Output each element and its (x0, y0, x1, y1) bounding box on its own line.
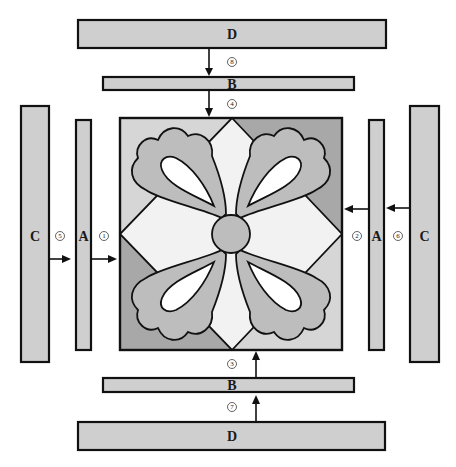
strip-right-inner-a: A (369, 120, 384, 350)
strip-label: C (30, 229, 40, 244)
strip-label: A (371, 229, 382, 244)
strip-label: B (227, 378, 236, 393)
step-number: 2 (355, 232, 359, 240)
step-number: 3 (230, 360, 234, 368)
quilt-assembly-diagram: D 8 B 4 C 5 A 1 (0, 0, 456, 467)
strip-label: C (419, 229, 429, 244)
strip-label: B (227, 77, 236, 92)
strip-left-inner-a: A (76, 120, 91, 350)
arrow-step-7: 7 (228, 395, 261, 422)
arrow-step-5: 5 (49, 232, 71, 264)
strip-bottom-outer-d: D (78, 422, 385, 450)
arrow-step-8: 8 (205, 48, 237, 76)
step-number: 5 (58, 232, 62, 240)
strip-label: D (227, 429, 237, 444)
strip-right-outer-c: C (410, 106, 439, 362)
arrow-step-6: 6 (386, 204, 410, 241)
step-number: 1 (102, 232, 106, 240)
step-number: 4 (230, 100, 234, 108)
step-number: 7 (230, 403, 234, 411)
strip-top-inner-b: B (103, 77, 354, 92)
strip-label: A (78, 229, 89, 244)
arrow-step-2: 2 (344, 205, 369, 241)
step-number: 8 (230, 58, 234, 66)
strip-left-outer-c: C (21, 106, 49, 362)
arrow-step-1: 1 (91, 232, 117, 264)
arrow-step-3: 3 (228, 351, 261, 378)
flower-center-circle (212, 215, 250, 253)
center-flower-block (120, 118, 342, 350)
strip-bottom-inner-b: B (103, 378, 354, 393)
strip-top-outer-d: D (78, 20, 386, 48)
step-number: 6 (396, 232, 400, 240)
strip-label: D (227, 27, 237, 42)
arrow-step-4: 4 (205, 90, 237, 117)
